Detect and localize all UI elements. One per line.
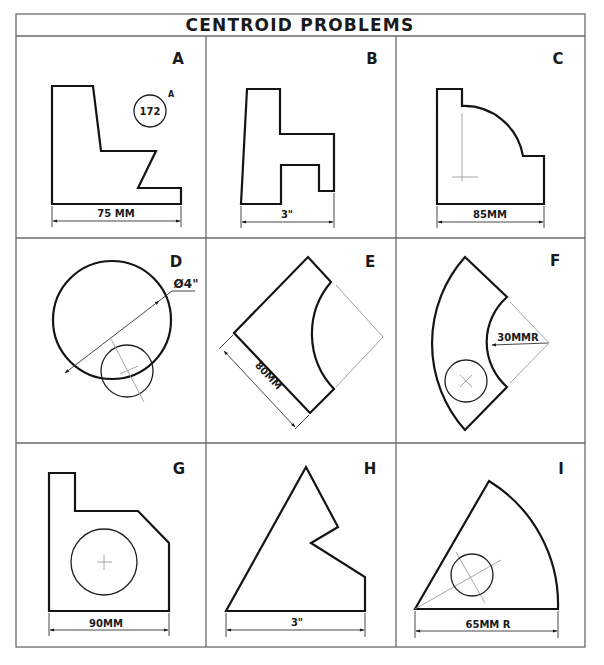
problem-letter: E [365,253,375,271]
problem-letter: C [552,50,563,68]
shape-outline [234,257,334,413]
diameter-line [65,301,159,373]
shape-outline [52,86,181,204]
dimension-label: 3" [291,617,303,628]
problem-letter: D [170,253,182,271]
sheet-title: CENTROID PROBLEMS [186,15,415,35]
shape-outline [49,473,169,611]
problem-letter: B [366,50,377,68]
problem-i: I 65MM R [415,460,564,638]
reference-number: 172 [140,106,161,117]
outer-circle [53,261,171,379]
problem-letter: H [364,460,377,478]
radius-line [492,343,548,345]
shape-outline [226,467,365,611]
shape-outline [241,89,334,204]
construction-line [336,285,383,337]
problem-h: H 3" [226,460,376,637]
shape-outline [437,89,544,204]
dimension-label: 65MM R [466,619,511,630]
reference-superscript: A [168,90,175,99]
extension-line [219,335,233,349]
problem-letter: I [558,460,564,478]
dimension-label: 75 MM [97,208,134,219]
problem-letter: G [173,460,185,478]
dimension-label: 85MM [473,209,507,220]
shape-outline [432,257,507,430]
problem-letter: A [172,50,184,68]
extension-line [295,415,309,429]
radius-construction-line [510,343,549,383]
problem-e: E 80MM [219,253,383,429]
problem-g: G 90MM [49,460,185,636]
dimension-label: 3" [281,209,293,220]
centroid-problems-sheet: CENTROID PROBLEMS A 172 A 75 MM B 3" C 8… [0,0,604,665]
problem-c: C 85MM [437,50,564,228]
problem-a: A 172 A 75 MM [52,50,184,227]
grid-frame [16,14,585,647]
problem-letter: F [550,252,560,270]
problem-d: D Ø4" [53,253,198,402]
dimension-label: 90MM [89,618,123,629]
dimension-label: Ø4" [174,277,199,291]
problem-b: B 3" [241,50,378,228]
construction-line [336,337,383,387]
problem-f: F 30MMR [432,252,560,430]
leader-line [159,291,172,301]
hole-circle [451,554,493,596]
outer-border [16,14,585,647]
dimension-label: 30MMR [497,332,539,343]
